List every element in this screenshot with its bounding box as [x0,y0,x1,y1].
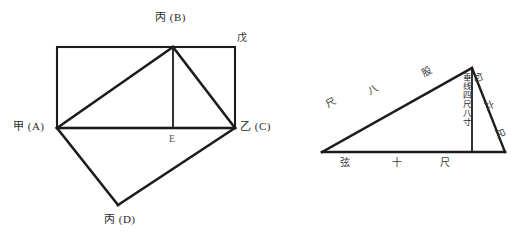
left-figure-edge-ab [57,47,173,128]
label-xian-chi: 尺 [440,158,451,168]
label-vertex-d: 丙 (D) [104,214,136,225]
label-vertex-wu: 戊 [237,33,248,43]
label-foot-e: E [169,134,176,144]
label-xian-name: 弦 [340,158,351,168]
left-figure [57,47,235,205]
left-figure-rectangle [57,47,235,128]
label-xian-ten: 十 [392,158,403,168]
right-figure-edge-gu [322,68,472,152]
label-altitude-measure: 垂线四尺八寸 [461,73,470,127]
label-vertex-b: 丙 (B) [155,12,186,23]
left-figure-edge-dc [118,128,235,205]
label-vertex-a: 甲 (A) [13,121,45,132]
left-figure-edge-ad [57,128,118,205]
left-figure-edge-bc [173,47,235,128]
label-vertex-c: 乙 (C) [240,121,271,132]
